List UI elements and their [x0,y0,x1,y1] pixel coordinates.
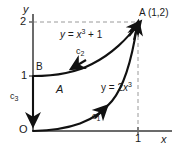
curve-label-c2: c2 [76,47,84,56]
curve-label-c3: c3 [10,92,18,101]
curve-label-c1-sub: 1 [97,115,101,122]
integral-path-diagram: y x O 2 1 1 A (1,2) B A y = x3 + 1 y = 2… [0,0,177,155]
x-axis-label: x [161,134,167,145]
x-tick-label-1: 1 [135,133,141,144]
curve-label-c2-main: c [76,46,81,56]
equation-c2: y = x3 + 1 [60,30,102,40]
curve-label-c1-main: c [92,111,97,121]
curve-label-c2-sub: 2 [81,50,85,57]
curve-label-c1: c1 [92,112,100,121]
origin-label: O [19,124,28,135]
y-tick-label-2: 2 [20,16,26,27]
y-axis-label: y [23,4,29,15]
point-b-label: B [36,62,43,72]
equation-c2-tail: + 1 [85,29,102,40]
curve-c2-direction-arrow [76,60,86,66]
y-tick-label-1: 1 [21,70,27,81]
curve-label-c3-main: c [10,91,15,101]
region-a-label: A [56,84,63,95]
point-a-label: A (1,2) [139,8,168,18]
equation-c1-exponent: 3 [128,81,132,88]
equation-c2-lhs: y = [60,29,76,40]
equation-c1: y = 2x3 [101,83,132,93]
curve-label-c3-sub: 3 [15,95,19,102]
equation-c1-lhs: y = 2 [101,82,123,93]
